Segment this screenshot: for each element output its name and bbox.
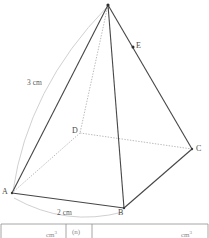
geometry-figure: A B C D E 3 cm 2 cm cm3 (n) cm3 [0, 0, 209, 238]
pyramid-drawing [0, 0, 209, 238]
table-rules [0, 223, 209, 238]
table-cell-1: (n) [72, 229, 80, 236]
point-marker-e [132, 46, 135, 49]
measurement-label-base-edge: 2 cm [57, 209, 72, 217]
vertex-label-b: B [118, 209, 123, 217]
point-marker-c [191, 148, 193, 150]
edge-apex-a [12, 5, 108, 193]
vertex-label-e: E [136, 42, 141, 50]
point-marker-a [11, 192, 13, 194]
edge-apex-c [108, 5, 192, 149]
answer-table-fragment [0, 223, 209, 238]
hidden-edge-apex-d [80, 5, 108, 133]
measurement-label-slant-height: 3 cm [27, 79, 42, 87]
vertex-label-d: D [72, 127, 78, 135]
vertex-label-c: C [196, 145, 201, 153]
hidden-edge-a-d [12, 133, 80, 193]
apex-point-marker [106, 3, 109, 6]
table-cell-0: cm3 [46, 230, 57, 238]
edge-b-c [124, 149, 192, 208]
edge-apex-b [108, 5, 124, 208]
table-cell-2: cm3 [181, 230, 192, 238]
vertex-label-a: A [2, 188, 8, 196]
hidden-edge-d-c [80, 133, 192, 149]
